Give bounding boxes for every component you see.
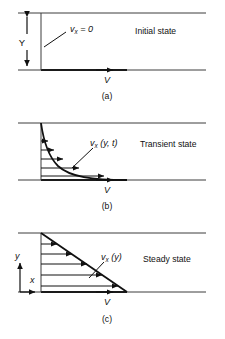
panel-c-caption: (c) bbox=[102, 314, 112, 324]
panel-b-velocity-label: V bbox=[104, 185, 111, 195]
panel-b-profile-label: vx (y, t) bbox=[90, 138, 118, 149]
panel-b: V vx (y, t) Transient state (b) bbox=[18, 123, 206, 211]
panel-c-velocity-label: V bbox=[104, 297, 111, 307]
couette-flow-diagram: Y vx = 0 V Initial state (a) bbox=[0, 0, 225, 339]
panel-b-state-label: Transient state bbox=[140, 139, 197, 149]
panel-c-x-axis-label: x bbox=[29, 275, 35, 285]
panel-a: Y vx = 0 V Initial state (a) bbox=[18, 13, 206, 101]
panel-a-caption: (a) bbox=[102, 91, 113, 101]
panel-c-profile-label: vx (y) bbox=[101, 252, 122, 263]
panel-b-leader-line bbox=[72, 148, 93, 168]
panel-a-velocity-label: V bbox=[104, 75, 111, 85]
panel-c: V y x vx (y) Steady state (c) bbox=[14, 233, 206, 324]
panel-a-state-label: Initial state bbox=[135, 26, 176, 36]
panel-a-leader-line bbox=[44, 32, 66, 47]
panel-c-profile-line bbox=[41, 233, 127, 292]
panel-b-caption: (b) bbox=[102, 201, 113, 211]
panel-c-y-axis-label: y bbox=[14, 251, 20, 261]
panel-b-profile-curve bbox=[41, 123, 127, 180]
panel-a-gap-label: Y bbox=[19, 37, 26, 48]
panel-a-profile-label: vx = 0 bbox=[70, 24, 93, 35]
figure-container: Y vx = 0 V Initial state (a) bbox=[0, 0, 225, 339]
panel-c-state-label: Steady state bbox=[143, 254, 191, 264]
